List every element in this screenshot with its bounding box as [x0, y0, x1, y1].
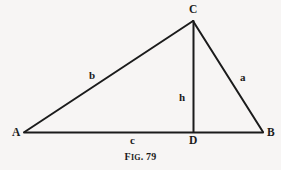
side-label-b: b [89, 70, 95, 81]
segment-cb [193, 21, 263, 132]
side-label-c: c [130, 135, 135, 146]
geometry-figure: A B C D a b c h FIG. 79 [0, 0, 281, 170]
side-label-a: a [240, 72, 246, 83]
figure-caption-suffix: . 79 [141, 151, 157, 162]
figure-caption: FIG. 79 [0, 151, 281, 162]
side-label-h: h [179, 92, 185, 103]
vertex-label-d: D [189, 135, 197, 147]
triangle-diagram [0, 0, 281, 170]
segment-ac [25, 21, 194, 132]
vertex-label-b: B [267, 127, 275, 139]
vertex-label-c: C [189, 4, 197, 16]
figure-caption-smallcaps: IG [131, 153, 141, 162]
vertex-label-a: A [12, 127, 20, 139]
